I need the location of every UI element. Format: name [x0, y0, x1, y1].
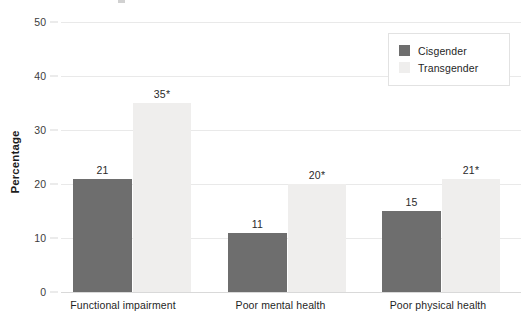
clipped-artifact: [118, 0, 125, 3]
bar-transgender-poor-physical-health[interactable]: 21*: [442, 179, 500, 292]
y-axis-title: Percentage: [0, 0, 34, 323]
bar-value-label: 21: [96, 164, 108, 176]
y-tick-mark-40: [50, 76, 58, 77]
bar-value-label: 20*: [309, 169, 325, 181]
y-tick-mark-20: [50, 184, 58, 185]
gridline-30: [61, 130, 521, 131]
y-tick-mark-0: [50, 292, 58, 293]
y-tick-mark-50: [50, 22, 58, 23]
y-tick-label-0: 0: [0, 286, 46, 298]
x-axis-label-functional-impairment: Functional impairment: [43, 299, 203, 311]
y-tick-label-40: 40: [0, 70, 46, 82]
y-tick-mark-10: [50, 238, 58, 239]
x-axis-label-poor-mental-health: Poor mental health: [203, 299, 358, 311]
legend-swatch-icon-transgender: [399, 62, 410, 73]
bar-value-label: 11: [252, 218, 263, 230]
bar-transgender-poor-mental-health[interactable]: 20*: [288, 184, 346, 292]
y-tick-label-20: 20: [0, 178, 46, 190]
bar-cisgender-poor-physical-health[interactable]: 15: [382, 211, 441, 292]
gridline-baseline-0: [61, 292, 521, 293]
bar-cisgender-functional-impairment[interactable]: 21: [73, 179, 132, 292]
gridline-50: [61, 22, 521, 23]
y-tick-label-50: 50: [0, 16, 46, 28]
bar-cisgender-poor-mental-health[interactable]: 11: [228, 233, 287, 292]
bar-value-label: 35*: [154, 88, 170, 100]
legend-item-cisgender[interactable]: Cisgender: [399, 42, 499, 59]
legend-swatch-icon-cisgender: [399, 45, 410, 56]
y-tick-label-10: 10: [0, 232, 46, 244]
legend-label-cisgender: Cisgender: [418, 45, 467, 57]
x-axis-label-poor-physical-health: Poor physical health: [358, 299, 518, 311]
bar-value-label: 21*: [463, 164, 479, 176]
y-tick-mark-30: [50, 130, 58, 131]
bar-transgender-functional-impairment[interactable]: 35*: [133, 103, 191, 292]
legend: Cisgender Transgender: [388, 33, 510, 86]
y-tick-label-30: 30: [0, 124, 46, 136]
bar-value-label: 15: [405, 196, 417, 208]
bar-chart: Percentage 50 40 30 20 10 0 21 35* 11: [0, 0, 526, 323]
legend-label-transgender: Transgender: [418, 62, 478, 74]
legend-item-transgender[interactable]: Transgender: [399, 59, 499, 76]
